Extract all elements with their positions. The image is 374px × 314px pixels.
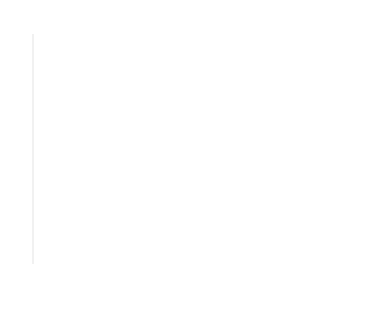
leaf-label-group	[0, 0, 374, 314]
dendrogram-plot	[0, 0, 374, 314]
